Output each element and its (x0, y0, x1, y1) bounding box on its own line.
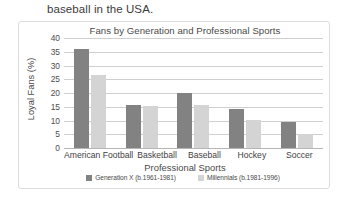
plot-inner: 4035302520151050 (64, 38, 323, 148)
y-axis-tick-label: 40 (44, 34, 60, 42)
bar[interactable] (298, 134, 313, 148)
chart-title: Fans by Generation and Professional Spor… (19, 25, 329, 36)
bar-group (271, 38, 323, 148)
legend-item[interactable]: Generation X (b.1961-1981) (86, 174, 176, 181)
legend-swatch-icon (198, 175, 204, 181)
y-axis-tick-label: 15 (44, 103, 60, 111)
bar-group (168, 38, 220, 148)
y-axis-tick-label: 5 (44, 130, 60, 138)
y-axis-tick-label: 25 (44, 75, 60, 83)
document-body-text: baseball in the USA. (47, 2, 153, 16)
x-axis-tick-label: American Football (64, 150, 133, 160)
bar-series-layer (64, 38, 323, 148)
x-axis-tick-label: Hockey (228, 150, 275, 160)
bar[interactable] (143, 106, 158, 148)
bar[interactable] (194, 105, 209, 148)
plot-area: 4035302520151050 (46, 38, 323, 148)
bar-group (64, 38, 116, 148)
y-axis-tick-label: 10 (44, 116, 60, 124)
bar[interactable] (281, 122, 296, 148)
chart-container: Fans by Generation and Professional Spor… (18, 21, 330, 189)
y-axis-tick-label: 30 (44, 61, 60, 69)
gridline (64, 148, 323, 149)
bar[interactable] (246, 120, 261, 148)
legend-swatch-icon (86, 175, 92, 181)
legend-label: Millennials (b.1981-1996) (207, 174, 280, 181)
y-axis-label: Loyal Fans (%) (26, 44, 36, 134)
y-axis-tick-label: 0 (44, 144, 60, 152)
bar[interactable] (177, 93, 192, 148)
bar[interactable] (91, 75, 106, 148)
x-axis-label: Professional Sports (19, 162, 329, 173)
bar[interactable] (229, 109, 244, 148)
x-axis-tick-label: Basketball (133, 150, 180, 160)
legend-label: Generation X (b.1961-1981) (95, 174, 176, 181)
bar[interactable] (74, 49, 89, 148)
bar[interactable] (126, 105, 141, 148)
bar-group (116, 38, 168, 148)
x-axis-tick-label: Baseball (181, 150, 228, 160)
y-axis-tick-label: 35 (44, 48, 60, 56)
chart-legend: Generation X (b.1961-1981)Millennials (b… (19, 174, 329, 181)
x-axis-tick-labels: American FootballBasketballBaseballHocke… (64, 150, 323, 160)
x-axis-tick-label: Soccer (276, 150, 323, 160)
legend-item[interactable]: Millennials (b.1981-1996) (198, 174, 280, 181)
y-axis-tick-label: 20 (44, 89, 60, 97)
bar-group (219, 38, 271, 148)
